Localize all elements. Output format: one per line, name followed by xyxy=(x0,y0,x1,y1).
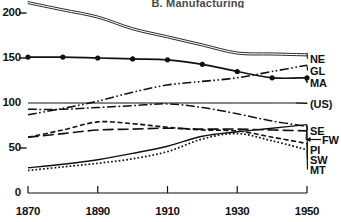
legend-label-fw: FW xyxy=(322,134,339,146)
x-tick-1870: 1870 xyxy=(5,205,51,217)
legend-label-us: (US) xyxy=(310,98,332,110)
legend-label-ma: MA xyxy=(310,77,327,89)
y-tick-0: 0 xyxy=(0,186,21,198)
series-se xyxy=(28,125,307,168)
y-tick-200: 200 xyxy=(0,6,21,18)
series-ma xyxy=(25,55,309,81)
legend-label-gl: GL xyxy=(310,65,325,77)
y-tick-150: 150 xyxy=(0,51,21,63)
x-tick-1890: 1890 xyxy=(75,205,121,217)
series-sw xyxy=(28,122,307,144)
chart-plot-area xyxy=(0,0,341,222)
legend-label-ne: NE xyxy=(310,53,325,65)
legend-label-mt: MT xyxy=(310,164,326,176)
x-tick-1950: 1950 xyxy=(284,205,330,217)
series-layer xyxy=(25,2,309,171)
y-tick-50: 50 xyxy=(0,141,21,153)
series-mt xyxy=(28,134,307,171)
y-tick-100: 100 xyxy=(0,96,21,108)
chart-figure: B. Manufacturing 200150100500 1870189019… xyxy=(0,0,341,222)
series-ne xyxy=(28,2,307,56)
series-gl xyxy=(28,65,307,115)
x-tick-1930: 1930 xyxy=(214,205,260,217)
x-tick-1910: 1910 xyxy=(145,205,191,217)
